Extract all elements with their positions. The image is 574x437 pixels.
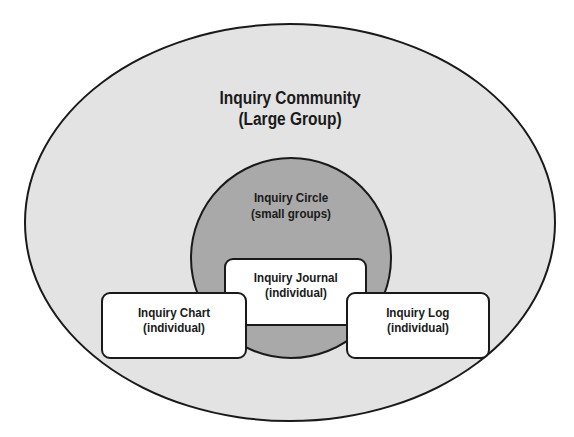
community-subtitle: (Large Group) bbox=[161, 109, 419, 130]
journal-title: Inquiry Journal bbox=[254, 270, 338, 285]
inquiry-circle-label: Inquiry Circle (small groups) bbox=[213, 190, 370, 222]
community-title: Inquiry Community bbox=[161, 88, 419, 109]
circle-title: Inquiry Circle bbox=[213, 190, 370, 206]
inquiry-chart-box: Inquiry Chart (individual) bbox=[101, 292, 247, 359]
chart-subtitle: (individual) bbox=[143, 320, 205, 335]
journal-subtitle: (individual) bbox=[265, 285, 327, 300]
chart-title: Inquiry Chart bbox=[138, 305, 210, 320]
inquiry-community-label: Inquiry Community (Large Group) bbox=[161, 88, 419, 130]
log-title: Inquiry Log bbox=[386, 305, 449, 320]
log-subtitle: (individual) bbox=[387, 320, 449, 335]
circle-subtitle: (small groups) bbox=[213, 206, 370, 222]
diagram: Inquiry Community (Large Group) Inquiry … bbox=[0, 0, 574, 437]
inquiry-log-box: Inquiry Log (individual) bbox=[346, 292, 490, 359]
